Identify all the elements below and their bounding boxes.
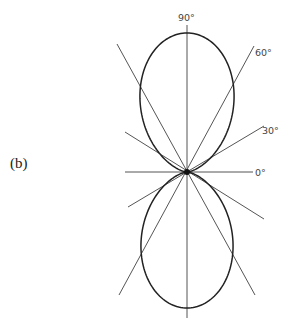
label-30-degrees: 30° <box>262 125 279 136</box>
label-0-degrees: 0° <box>255 167 266 178</box>
axis-line-150 <box>125 132 264 219</box>
label-60-degrees: 60° <box>255 47 272 58</box>
diagram-canvas: (b) 90° 60° 30° 0° <box>0 0 290 329</box>
label-90-degrees: 90° <box>178 12 195 23</box>
origin-point <box>184 169 190 175</box>
polar-diagram: 90° 60° 30° 0° <box>0 0 290 329</box>
axis-line-30 <box>128 126 264 207</box>
